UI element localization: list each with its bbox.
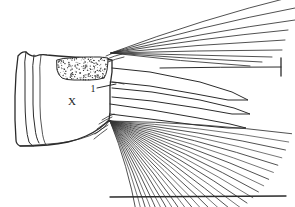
label-segment-x: X bbox=[68, 95, 76, 107]
figure-container: X 1 bbox=[0, 0, 295, 207]
morphology-line-drawing: X 1 bbox=[0, 0, 295, 207]
label-seta-1: 1 bbox=[91, 83, 96, 94]
stippled-saddle-group bbox=[57, 57, 108, 81]
